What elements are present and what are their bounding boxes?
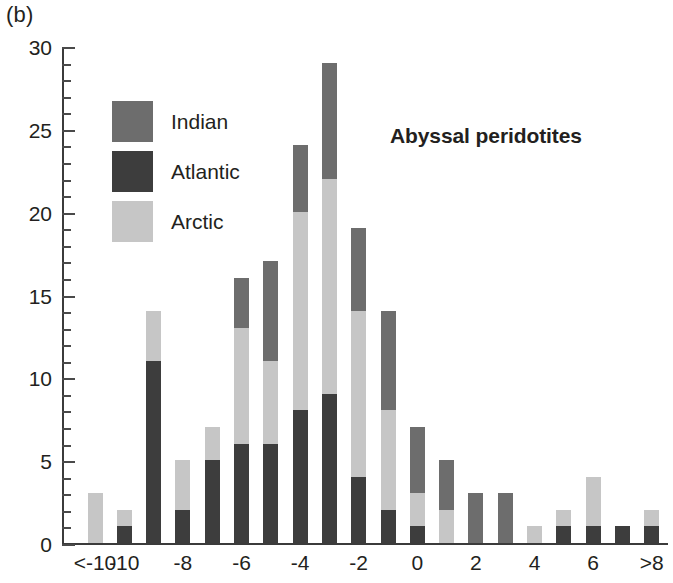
y-axis-minor-tick (62, 511, 71, 513)
y-axis-major-tick (62, 544, 75, 546)
bar (527, 526, 542, 543)
bar-segment-arctic (527, 526, 542, 543)
bar-segment-atlantic (381, 510, 396, 543)
figure-panel-b: (b) Abyssal peridotites 051015202530 <-1… (0, 0, 673, 583)
bar-segment-indian (468, 493, 483, 543)
x-axis-tick-label: -4 (291, 552, 310, 573)
y-axis-minor-tick (62, 262, 71, 264)
bar-segment-indian (351, 228, 366, 311)
bar (117, 510, 132, 543)
y-axis-minor-tick (62, 395, 71, 397)
bar-segment-indian (234, 278, 249, 328)
bar-segment-indian (410, 427, 425, 493)
bar-segment-arctic (381, 410, 396, 509)
x-axis-tick-label: 0 (411, 552, 423, 573)
legend-label: Atlantic (171, 161, 240, 182)
bar-segment-indian (322, 63, 337, 179)
bar (322, 63, 337, 543)
bar (205, 427, 220, 543)
y-axis-tick-label: 10 (8, 368, 52, 389)
bar-segment-arctic (439, 510, 454, 543)
bar (381, 311, 396, 543)
legend-label: Arctic (171, 211, 224, 232)
bar-segment-arctic (234, 328, 249, 444)
y-axis-minor-tick (62, 163, 71, 165)
bar-segment-atlantic (644, 526, 659, 543)
bar-segment-arctic (205, 427, 220, 460)
bar-segment-arctic (410, 493, 425, 526)
bar (556, 510, 571, 543)
bar (234, 278, 249, 543)
y-axis-minor-tick (62, 312, 71, 314)
y-axis-minor-tick (62, 411, 71, 413)
y-axis-minor-tick (62, 80, 71, 82)
legend-swatch-atlantic (112, 151, 153, 192)
bar-segment-indian (381, 311, 396, 410)
bar (644, 510, 659, 543)
bar-segment-atlantic (263, 444, 278, 543)
y-axis-minor-tick (62, 113, 71, 115)
x-axis-tick-label: -8 (174, 552, 193, 573)
legend: IndianAtlanticArctic (112, 96, 302, 246)
bar (498, 493, 513, 543)
bar (586, 477, 601, 543)
x-axis-line (62, 543, 668, 545)
y-axis-minor-tick (62, 445, 71, 447)
legend-label: Indian (171, 111, 228, 132)
x-axis-tick-label: 6 (587, 552, 599, 573)
panel-label: (b) (6, 2, 34, 28)
y-axis-tick-label: 20 (8, 203, 52, 224)
bar (410, 427, 425, 543)
y-axis-minor-tick (62, 362, 71, 364)
bar-segment-atlantic (293, 410, 308, 543)
bar-segment-atlantic (234, 444, 249, 543)
legend-item-atlantic: Atlantic (112, 146, 302, 196)
bar (468, 493, 483, 543)
y-axis-major-tick (62, 130, 75, 132)
x-axis-tick-label: 2 (470, 552, 482, 573)
bar-segment-atlantic (351, 477, 366, 543)
y-axis-major-tick (62, 47, 75, 49)
x-axis-tick-label: >8 (640, 552, 664, 573)
bar-segment-indian (263, 261, 278, 360)
y-axis-minor-tick (62, 196, 71, 198)
y-axis-major-tick (62, 378, 75, 380)
bar-segment-arctic (351, 311, 366, 477)
y-axis-minor-tick (62, 97, 71, 99)
bar (146, 311, 161, 543)
y-axis-minor-tick (62, 527, 71, 529)
y-axis-minor-tick (62, 478, 71, 480)
y-axis-minor-tick (62, 428, 71, 430)
bar (615, 526, 630, 543)
bar-segment-arctic (644, 510, 659, 527)
y-axis-major-tick (62, 461, 75, 463)
legend-item-indian: Indian (112, 96, 302, 146)
y-axis-tick-label: 15 (8, 286, 52, 307)
y-axis-tick-label: 25 (8, 120, 52, 141)
bar-segment-atlantic (556, 526, 571, 543)
y-axis-minor-tick (62, 180, 71, 182)
y-axis-minor-tick (62, 246, 71, 248)
bar (351, 228, 366, 543)
legend-item-arctic: Arctic (112, 196, 302, 246)
bar-segment-arctic (175, 460, 190, 510)
x-axis-tick-label: -2 (349, 552, 368, 573)
y-axis-minor-tick (62, 229, 71, 231)
bar-segment-atlantic (117, 526, 132, 543)
bar-segment-atlantic (615, 526, 630, 543)
bar-segment-atlantic (205, 460, 220, 543)
y-axis-major-tick (62, 213, 75, 215)
y-axis-minor-tick (62, 329, 71, 331)
x-axis-tick-label: -10 (109, 552, 139, 573)
bar-segment-atlantic (322, 394, 337, 543)
bar-segment-atlantic (146, 361, 161, 543)
legend-swatch-arctic (112, 201, 153, 242)
y-axis-tick-label: 0 (8, 534, 52, 555)
bar-segment-arctic (117, 510, 132, 527)
bar-segment-arctic (322, 179, 337, 394)
y-axis-minor-tick (62, 494, 71, 496)
bar (88, 493, 103, 543)
bar-segment-arctic (556, 510, 571, 527)
y-axis-tick-label: 30 (8, 37, 52, 58)
y-axis-major-tick (62, 296, 75, 298)
